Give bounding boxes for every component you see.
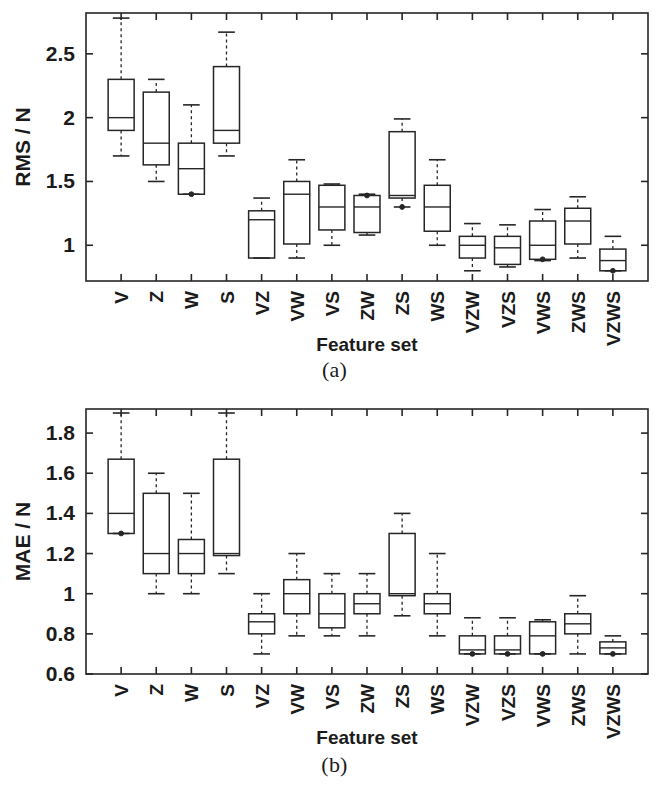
box-plot-group (600, 236, 626, 273)
y-axis-tick-label: 1 (63, 582, 75, 605)
x-axis-label: Feature set (316, 727, 418, 748)
x-axis-category-label: VZS (498, 684, 519, 721)
y-axis-label: RMS / N (11, 107, 34, 186)
box-plot-group (178, 493, 204, 593)
box-plot-group (354, 193, 380, 235)
outlier-point (189, 192, 194, 197)
outlier-point (119, 531, 124, 536)
box-plot-group (354, 574, 380, 636)
x-axis-category-label: W (181, 291, 202, 309)
x-axis-category-label: VZS (498, 291, 519, 328)
panel-b: 0.60.811.21.41.61.8MAE / NVZWSVZVWVSZWZS… (0, 395, 669, 795)
box-plot-group (600, 636, 626, 656)
box-plot-group (319, 574, 345, 636)
outlier-point (470, 652, 475, 657)
y-axis-tick-label: 1 (63, 233, 75, 256)
x-axis-category-label: VZ (252, 291, 273, 316)
box-plot-group (214, 413, 240, 574)
x-axis-category-label: VZ (252, 684, 273, 709)
box-plot-group (495, 225, 521, 267)
box-plot-group (424, 160, 450, 246)
box-plot-group (459, 618, 485, 657)
outlier-point (610, 268, 615, 273)
box-plot-group (249, 594, 275, 654)
y-axis-tick-label: 2 (63, 106, 75, 129)
x-axis-category-label: S (217, 684, 238, 697)
x-axis-category-label: VW (287, 291, 308, 322)
x-axis-category-label: VZWS (603, 684, 624, 739)
caption-a: (a) (0, 357, 669, 383)
y-axis-label: MAE / N (11, 502, 34, 581)
outlier-point (610, 652, 615, 657)
x-axis-category-label: S (217, 291, 238, 304)
box-plot-group (389, 513, 415, 615)
box-plot-group (214, 32, 240, 156)
box-plot-group (495, 618, 521, 657)
x-axis-category-label: ZWS (568, 291, 589, 333)
x-axis-category-label: VWS (533, 291, 554, 334)
x-axis-category-label: VZWS (603, 291, 624, 346)
boxplot-b: 0.60.811.21.41.61.8MAE / NVZWSVZVWVSZWZS… (0, 395, 669, 795)
x-axis-category-label: VZW (462, 684, 483, 726)
box-plot-group (249, 198, 275, 258)
panel-a: 11.522.5RMS / NVZWSVZVWVSZWZSWSVZWVZSVWS… (0, 0, 669, 395)
box-plot-group (143, 473, 169, 593)
box-plot-group (389, 119, 415, 209)
box-plot-group (178, 105, 204, 197)
y-axis-tick-label: 1.6 (46, 461, 75, 484)
x-axis-category-label: VW (287, 684, 308, 715)
x-axis-category-label: V (111, 291, 132, 304)
box-plot-group (284, 160, 310, 258)
x-axis-label: Feature set (316, 334, 418, 355)
box-plot-group (108, 18, 134, 156)
x-axis-category-label: VS (322, 291, 343, 316)
outlier-point (365, 193, 370, 198)
figure-container: 11.522.5RMS / NVZWSVZVWVSZWZSWSVZWVZSVWS… (0, 0, 669, 795)
y-axis-tick-label: 1.4 (46, 501, 76, 524)
box-plot-group (565, 197, 591, 258)
y-axis-tick-label: 1.2 (46, 542, 75, 565)
box-plot-group (530, 620, 556, 657)
x-axis-category-label: Z (146, 684, 167, 696)
plot-frame (86, 13, 648, 281)
caption-b: (b) (0, 752, 669, 778)
x-axis-category-label: WS (427, 684, 448, 715)
box-plot-group (530, 210, 556, 262)
y-axis-tick-label: 0.6 (46, 662, 75, 685)
outlier-point (505, 652, 510, 657)
x-axis-category-label: Z (146, 291, 167, 303)
x-axis-category-label: VWS (533, 684, 554, 727)
x-axis-category-label: W (181, 684, 202, 702)
x-axis-category-label: VS (322, 684, 343, 709)
x-axis-category-label: ZS (392, 291, 413, 315)
box-plot-group (284, 554, 310, 636)
x-axis-category-label: ZS (392, 684, 413, 708)
x-axis-category-label: ZW (357, 684, 378, 714)
outlier-point (400, 205, 405, 210)
x-axis-category-label: ZWS (568, 684, 589, 726)
outlier-point (540, 652, 545, 657)
box-plot-group (319, 184, 345, 245)
box-plot-group (108, 413, 134, 536)
box-plot-group (565, 596, 591, 654)
box-plot-group (459, 224, 485, 271)
boxplot-a: 11.522.5RMS / NVZWSVZVWVSZWZSWSVZWVZSVWS… (0, 0, 669, 395)
y-axis-tick-label: 1.8 (46, 421, 76, 444)
box-plot-group (143, 79, 169, 181)
y-axis-tick-label: 1.5 (46, 169, 76, 192)
y-axis-tick-label: 2.5 (46, 42, 76, 65)
x-axis-category-label: WS (427, 291, 448, 322)
x-axis-category-label: ZW (357, 291, 378, 321)
box-plot-group (424, 554, 450, 636)
x-axis-category-label: V (111, 684, 132, 697)
outlier-point (540, 257, 545, 262)
x-axis-category-label: VZW (462, 291, 483, 333)
y-axis-tick-label: 0.8 (46, 622, 76, 645)
